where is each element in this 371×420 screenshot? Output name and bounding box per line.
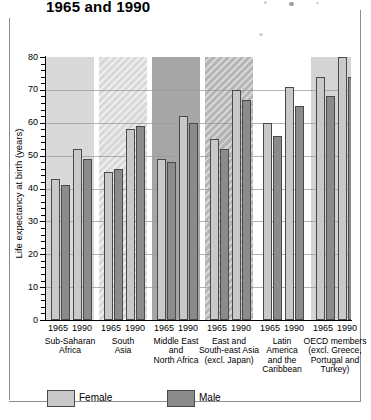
legend-swatch-male: [167, 390, 195, 407]
gridline-50: [46, 156, 351, 157]
y-minor-tick: [41, 307, 45, 308]
bar-male-1990: [295, 106, 305, 320]
bar-female-1965: [316, 77, 326, 320]
bar-female-1990: [179, 116, 189, 320]
bar-female-1965: [263, 123, 273, 320]
bar-male-1990: [189, 123, 199, 320]
y-minor-tick: [41, 248, 45, 249]
y-tick-40: [40, 189, 46, 190]
legend-label-female: Female: [79, 392, 112, 403]
x-axis-line: [45, 320, 352, 321]
y-minor-tick: [41, 208, 45, 209]
scan-speck: [289, 2, 294, 6]
y-axis-title: Life expectancy at birth (years): [13, 114, 24, 274]
x-year-label: 1990: [334, 323, 360, 333]
x-year-label: 1990: [281, 323, 307, 333]
bar-male-1965: [61, 185, 71, 320]
x-year-label: 1965: [151, 323, 177, 333]
bar-female-1990: [73, 149, 83, 320]
bar-male-1990: [242, 100, 252, 320]
y-minor-tick: [41, 261, 45, 262]
y-minor-tick: [41, 142, 45, 143]
y-tick-80: [40, 57, 46, 58]
scan-speck: [316, 2, 319, 4]
y-minor-tick: [41, 235, 45, 236]
y-minor-tick: [41, 202, 45, 203]
y-minor-tick: [41, 77, 45, 78]
y-tick-0: [40, 320, 46, 321]
bar-female-1990: [126, 129, 136, 320]
page-border-left: [9, 18, 10, 400]
y-minor-tick: [41, 228, 45, 229]
y-minor-tick: [41, 96, 45, 97]
bar-male-1965: [326, 96, 336, 320]
x-year-label: 1990: [228, 323, 254, 333]
y-minor-tick: [41, 162, 45, 163]
y-minor-tick: [41, 110, 45, 111]
bar-male-1965: [220, 149, 230, 320]
x-year-label: 1965: [257, 323, 283, 333]
y-minor-tick: [41, 274, 45, 275]
y-minor-tick: [41, 195, 45, 196]
y-minor-tick: [41, 215, 45, 216]
bar-female-1965: [51, 179, 61, 320]
y-tick-20: [40, 254, 46, 255]
x-category-line: Turkey): [299, 365, 371, 374]
y-minor-tick: [41, 169, 45, 170]
y-minor-tick: [41, 103, 45, 104]
y-minor-tick: [41, 241, 45, 242]
x-category-label: OECD members(excl. Greece,Portugal andTu…: [299, 337, 371, 375]
bar-male-1965: [167, 162, 177, 320]
x-year-label: 1990: [122, 323, 148, 333]
gridline-60: [46, 123, 351, 124]
legend-swatch-female: [47, 390, 75, 407]
x-year-label: 1965: [204, 323, 230, 333]
y-minor-tick: [41, 83, 45, 84]
bar-female-1965: [104, 172, 114, 320]
y-tick-label-10: 10: [10, 283, 38, 292]
y-tick-label-70: 70: [10, 85, 38, 94]
chart-title: 1965 and 1990: [46, 0, 150, 15]
x-year-label: 1965: [310, 323, 336, 333]
bar-female-1965: [210, 139, 220, 320]
plot-area: [46, 57, 351, 320]
legend-label-male: Male: [199, 392, 221, 403]
x-year-label: 1990: [175, 323, 201, 333]
y-tick-10: [40, 287, 46, 288]
y-minor-tick: [41, 175, 45, 176]
y-minor-tick: [41, 116, 45, 117]
bar-female-1990: [285, 87, 295, 320]
y-tick-label-0: 0: [10, 316, 38, 325]
y-minor-tick: [41, 300, 45, 301]
y-minor-tick: [41, 149, 45, 150]
y-minor-tick: [41, 136, 45, 137]
y-minor-tick: [41, 267, 45, 268]
y-minor-tick: [41, 313, 45, 314]
y-minor-tick: [41, 281, 45, 282]
bar-male-1990: [136, 126, 146, 320]
chart-figure: 1965 and 1990 01020304050607080 Life exp…: [0, 0, 371, 420]
y-minor-tick: [41, 129, 45, 130]
bar-female-1990: [232, 90, 242, 320]
bar-female-1990: [338, 57, 348, 320]
x-year-label: 1965: [98, 323, 124, 333]
x-axis-year-labels: 1965199019651990196519901965199019651990…: [46, 323, 351, 335]
y-minor-tick: [41, 182, 45, 183]
y-tick-50: [40, 156, 46, 157]
bar-male-1990: [83, 159, 93, 320]
bar-male-1990: [348, 77, 352, 320]
bar-female-1965: [157, 159, 167, 320]
y-tick-60: [40, 123, 46, 124]
x-year-label: 1990: [69, 323, 95, 333]
y-tick-70: [40, 90, 46, 91]
y-tick-30: [40, 221, 46, 222]
bar-male-1965: [273, 136, 283, 320]
y-minor-tick: [41, 70, 45, 71]
x-year-label: 1965: [45, 323, 71, 333]
gridline-70: [46, 90, 351, 91]
y-tick-label-80: 80: [10, 53, 38, 62]
y-minor-tick: [41, 294, 45, 295]
bar-male-1965: [114, 169, 124, 320]
scan-speck: [264, 1, 267, 4]
scan-speck: [259, 33, 263, 36]
